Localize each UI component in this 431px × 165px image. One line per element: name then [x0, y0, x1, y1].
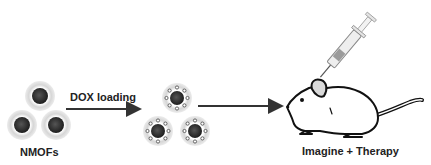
dox-loading-label: DOX loading: [70, 91, 136, 103]
nmof-particle: [7, 110, 37, 140]
nmof-particle: [25, 81, 55, 111]
diagram-canvas: [0, 0, 431, 165]
imagine-therapy-label: Imagine + Therapy: [302, 145, 399, 157]
nmof-particles: [7, 81, 71, 140]
nmofs-label: NMOFs: [20, 146, 59, 158]
dox-loaded-particles: [143, 83, 210, 146]
syringe-illustration: [314, 11, 378, 83]
loaded-particle: [143, 116, 173, 146]
nmof-particle: [41, 110, 71, 140]
loaded-particle: [180, 116, 210, 146]
loaded-particle: [162, 83, 192, 113]
mouse-illustration: [287, 79, 422, 137]
